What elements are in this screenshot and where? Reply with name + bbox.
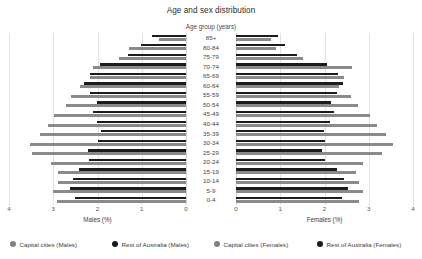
bar-rest-of-australia bbox=[70, 187, 186, 189]
bar-capital-cities bbox=[236, 171, 356, 174]
bar-row bbox=[9, 90, 186, 100]
bar-row bbox=[236, 62, 413, 72]
bar-capital-cities bbox=[236, 200, 359, 203]
males-axis-label: Males (%) bbox=[9, 216, 186, 223]
bar-rest-of-australia bbox=[97, 101, 186, 103]
bar-capital-cities bbox=[51, 162, 186, 165]
age-group-labels: 85+80-8475-7970-7465-6960-6455-5950-5445… bbox=[186, 33, 236, 205]
age-group-axis-title: Age group (years) bbox=[0, 23, 422, 30]
age-group-label: 65-69 bbox=[186, 71, 236, 81]
bar-capital-cities bbox=[30, 143, 186, 146]
bar-row bbox=[236, 81, 413, 91]
age-group-label: 75-79 bbox=[186, 52, 236, 62]
bar-rest-of-australia bbox=[97, 121, 186, 123]
legend-item[interactable]: Capital cities (Males) bbox=[10, 237, 77, 251]
bar-rest-of-australia bbox=[101, 130, 186, 132]
age-group-label: 45-49 bbox=[186, 109, 236, 119]
bar-row bbox=[9, 43, 186, 53]
legend-swatch-gray-icon bbox=[214, 241, 220, 247]
bar-row bbox=[9, 100, 186, 110]
bar-capital-cities bbox=[66, 104, 186, 107]
bar-row bbox=[9, 129, 186, 139]
legend-label: Rest of Australia (Females) bbox=[327, 241, 402, 248]
age-group-label: 55-59 bbox=[186, 90, 236, 100]
legend-item[interactable]: Capital cities (Females) bbox=[214, 237, 288, 251]
bar-row bbox=[9, 71, 186, 81]
bar-rest-of-australia bbox=[236, 92, 337, 94]
gridline-4 bbox=[413, 33, 414, 205]
population-pyramid-chart: Age and sex distribution Age group (year… bbox=[0, 0, 422, 259]
bar-rest-of-australia bbox=[98, 140, 186, 142]
age-group-label: 60-64 bbox=[186, 81, 236, 91]
legend-swatch-black-icon bbox=[317, 241, 323, 247]
legend-label: Rest of Australia (Males) bbox=[122, 241, 189, 248]
bar-row bbox=[236, 71, 413, 81]
chart-legend: Capital cities (Males)Rest of Australia … bbox=[0, 237, 422, 253]
bar-row bbox=[9, 138, 186, 148]
x-tick-label: 3 bbox=[45, 205, 61, 212]
bar-capital-cities bbox=[236, 66, 352, 69]
legend-item[interactable]: Rest of Australia (Males) bbox=[112, 237, 189, 251]
bar-rest-of-australia bbox=[128, 54, 186, 56]
bar-rest-of-australia bbox=[141, 44, 186, 46]
bar-rest-of-australia bbox=[84, 82, 186, 84]
bar-capital-cities bbox=[48, 124, 186, 127]
bar-rest-of-australia bbox=[236, 63, 327, 65]
bar-capital-cities bbox=[236, 57, 303, 60]
bar-capital-cities bbox=[32, 152, 186, 155]
bar-rest-of-australia bbox=[75, 197, 187, 199]
bar-row bbox=[9, 33, 186, 43]
x-tick-label: 2 bbox=[317, 205, 333, 212]
bar-capital-cities bbox=[58, 171, 186, 174]
bar-capital-cities bbox=[236, 181, 359, 184]
age-group-label: 70-74 bbox=[186, 62, 236, 72]
bar-rest-of-australia bbox=[79, 168, 186, 170]
bar-rest-of-australia bbox=[236, 35, 278, 37]
bar-capital-cities bbox=[236, 124, 377, 127]
bar-rest-of-australia bbox=[236, 159, 325, 161]
bar-rest-of-australia bbox=[236, 111, 334, 113]
males-bar-rows bbox=[9, 33, 186, 205]
females-plot-area bbox=[236, 33, 413, 205]
bar-row bbox=[9, 195, 186, 205]
bar-row bbox=[236, 100, 413, 110]
bar-row bbox=[236, 129, 413, 139]
bar-rest-of-australia bbox=[89, 159, 186, 161]
bar-rest-of-australia bbox=[236, 149, 322, 151]
bar-capital-cities bbox=[93, 66, 186, 69]
x-tick-label: 4 bbox=[1, 205, 17, 212]
bar-row bbox=[9, 62, 186, 72]
age-group-label: 20-24 bbox=[186, 157, 236, 167]
bar-capital-cities bbox=[58, 181, 186, 184]
bar-capital-cities bbox=[119, 57, 186, 60]
bar-row bbox=[236, 148, 413, 158]
bar-rest-of-australia bbox=[236, 178, 344, 180]
age-group-label: 35-39 bbox=[186, 129, 236, 139]
legend-item[interactable]: Rest of Australia (Females) bbox=[317, 237, 401, 251]
bar-capital-cities bbox=[236, 85, 339, 88]
age-group-label: 85+ bbox=[186, 33, 236, 43]
bar-capital-cities bbox=[71, 95, 186, 98]
males-plot-area bbox=[9, 33, 186, 205]
bar-row bbox=[9, 176, 186, 186]
bar-rest-of-australia bbox=[88, 149, 186, 151]
bar-rest-of-australia bbox=[152, 35, 187, 37]
bar-row bbox=[9, 186, 186, 196]
age-group-label: 50-54 bbox=[186, 100, 236, 110]
age-group-label: 5-9 bbox=[186, 186, 236, 196]
bar-row bbox=[9, 157, 186, 167]
bar-capital-cities bbox=[54, 114, 186, 117]
x-tick-label: 3 bbox=[361, 205, 377, 212]
bar-capital-cities bbox=[236, 162, 363, 165]
bar-row bbox=[236, 157, 413, 167]
x-tick-label: 0 bbox=[178, 205, 194, 212]
females-bar-rows bbox=[236, 33, 413, 205]
bar-capital-cities bbox=[236, 38, 271, 41]
bar-row bbox=[236, 138, 413, 148]
bar-capital-cities bbox=[236, 47, 276, 50]
legend-swatch-gray-icon bbox=[10, 241, 16, 247]
age-group-label: 10-14 bbox=[186, 176, 236, 186]
bar-row bbox=[9, 167, 186, 177]
bar-rest-of-australia bbox=[236, 197, 342, 199]
bar-rest-of-australia bbox=[236, 101, 331, 103]
